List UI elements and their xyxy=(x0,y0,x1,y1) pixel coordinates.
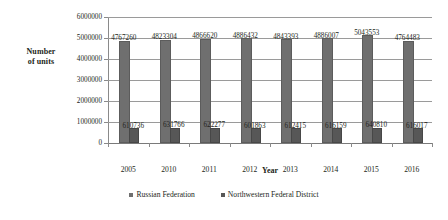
bar-group: 4886432601863 xyxy=(230,17,271,143)
x-axis-tick-mark xyxy=(311,143,312,147)
y-axis-title-line-2: of units xyxy=(10,57,72,67)
bar-northwestern-federal-district[interactable] xyxy=(372,128,382,143)
y-axis-tick-label: 4000000 xyxy=(77,55,102,63)
bar-northwestern-federal-district[interactable] xyxy=(413,128,423,143)
legend-label: Northwestern Federal District xyxy=(228,190,319,199)
bar-group: 4764483616017 xyxy=(392,17,433,143)
bar-group: 4823304631766 xyxy=(149,17,190,143)
bar-value-label: 610736 xyxy=(113,122,153,130)
y-axis-tick-label: 6000000 xyxy=(77,13,102,21)
x-axis-tick-mark xyxy=(108,143,109,147)
y-axis-title-line-1: Number xyxy=(10,47,72,57)
legend-swatch-icon xyxy=(129,193,133,197)
bar-group: 4843393612415 xyxy=(270,17,311,143)
bar-value-label: 640810 xyxy=(356,121,396,129)
bar-value-label: 601863 xyxy=(235,122,275,130)
bar-group: 5043553640810 xyxy=(351,17,392,143)
legend-label: Russian Federation xyxy=(136,190,194,199)
bar-value-label: 4843393 xyxy=(266,33,306,41)
bar-value-label: 612415 xyxy=(275,122,315,130)
bar-value-label: 4866620 xyxy=(185,32,225,40)
x-axis-tick-mark xyxy=(432,143,433,147)
bar-group: 4767260610736 xyxy=(108,17,149,143)
x-axis-tick-mark xyxy=(392,143,393,147)
y-axis-tick-label: 5000000 xyxy=(77,34,102,42)
bar-value-label: 616159 xyxy=(316,122,356,130)
bar-group: 4866620622277 xyxy=(189,17,230,143)
plot-area: 0100000020000003000000400000050000006000… xyxy=(108,17,432,143)
y-axis-tick-label: 0 xyxy=(98,139,102,147)
x-axis-tick-mark xyxy=(270,143,271,147)
bar-value-label: 4886432 xyxy=(225,32,265,40)
chart-legend: Russian FederationNorthwestern Federal D… xyxy=(0,190,448,199)
legend-item[interactable]: Northwestern Federal District xyxy=(221,190,319,199)
x-axis-tick-mark xyxy=(189,143,190,147)
bar-northwestern-federal-district[interactable] xyxy=(129,128,139,143)
bar-value-label: 4886007 xyxy=(306,32,346,40)
bar-northwestern-federal-district[interactable] xyxy=(332,128,342,143)
bar-northwestern-federal-district[interactable] xyxy=(291,128,301,143)
legend-item[interactable]: Russian Federation xyxy=(129,190,194,199)
x-axis-title: Year xyxy=(108,166,432,175)
y-axis-tick-label: 1000000 xyxy=(77,118,102,126)
bar-group: 4886007616159 xyxy=(311,17,352,143)
y-axis-tick-label: 2000000 xyxy=(77,97,102,105)
bar-value-label: 622277 xyxy=(194,121,234,129)
x-axis-tick-mark xyxy=(230,143,231,147)
bar-value-label: 4764483 xyxy=(387,34,427,42)
y-axis-title: Number of units xyxy=(10,47,72,67)
bar-value-label: 631766 xyxy=(154,121,194,129)
bar-value-label: 4767260 xyxy=(104,34,144,42)
bar-groups: 4767260610736482330463176648666206222774… xyxy=(108,17,432,143)
x-axis-tick-mark xyxy=(351,143,352,147)
bar-northwestern-federal-district[interactable] xyxy=(210,128,220,143)
bar-chart: Number of units 010000002000000300000040… xyxy=(0,0,448,220)
bar-northwestern-federal-district[interactable] xyxy=(170,128,180,143)
y-axis-tick-label: 3000000 xyxy=(77,76,102,84)
x-axis-tick-mark xyxy=(149,143,150,147)
legend-swatch-icon xyxy=(221,193,225,197)
bar-northwestern-federal-district[interactable] xyxy=(251,128,261,143)
bar-value-label: 4823304 xyxy=(144,33,184,41)
bar-value-label: 616017 xyxy=(397,122,437,130)
bar-value-label: 5043553 xyxy=(347,29,387,37)
